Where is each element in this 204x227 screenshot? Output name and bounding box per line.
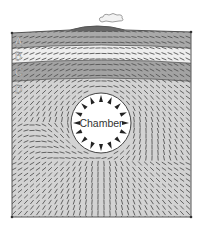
layer-label-c: C xyxy=(15,67,22,78)
layer-label-a: A xyxy=(15,36,22,47)
layer-label-b: B xyxy=(15,51,22,62)
magma-chamber-diagram: Chamber A B C D xyxy=(0,0,204,227)
layer-label-d: D xyxy=(15,84,22,95)
chamber-label: Chamber xyxy=(79,117,123,129)
magma-chamber: Chamber xyxy=(71,93,131,153)
eruption-plume xyxy=(99,14,123,23)
